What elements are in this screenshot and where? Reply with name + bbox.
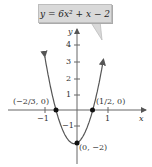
callout-pointer [90, 21, 102, 40]
y-intercept-label: (0, −2) [79, 143, 107, 152]
y-axis-label: y [68, 27, 73, 36]
equation-callout: y = 6x² + x − 2 [38, 4, 112, 23]
x-axis-label: x [139, 114, 144, 123]
x-tick-1: 1 [105, 114, 110, 123]
right-root-label: (1/2, 0) [96, 97, 125, 106]
left-root-point [54, 108, 59, 113]
y-tick-3: 3 [66, 57, 71, 66]
parabola-curve [45, 57, 104, 144]
left-root-label: (−2/3, 0) [13, 97, 49, 106]
x-tick-neg1: −1 [37, 114, 49, 123]
right-root-point [90, 108, 95, 113]
y-tick-1: 1 [66, 90, 71, 99]
y-tick-4: 4 [66, 40, 71, 49]
y-tick-2: 2 [66, 74, 71, 83]
parabola-plot [0, 0, 152, 167]
y-tick-neg1: −1 [62, 121, 74, 130]
